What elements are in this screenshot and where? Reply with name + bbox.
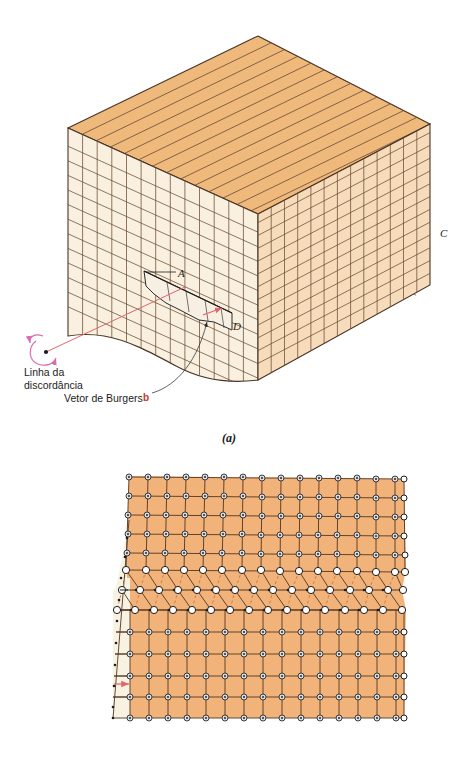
label-burgers-symbol-a: b xyxy=(143,392,149,403)
panel-a-3d-crystal: A C D Linha da discordância Vetor de Bur… xyxy=(0,0,462,460)
figure-root: A C D Linha da discordância Vetor de Bur… xyxy=(0,0,462,769)
label-burgers-vector: Vetor de Burgers xyxy=(64,392,143,405)
label-corner-d: D xyxy=(233,321,241,332)
label-dislocation-line-1: Linha da xyxy=(24,366,83,379)
caption-panel-a: (a) xyxy=(222,431,236,446)
panel-b-atomic-lattice: A B C D b (b) xyxy=(0,460,462,769)
label-dislocation-line: Linha da discordância xyxy=(24,366,83,392)
label-corner-a: A xyxy=(178,268,185,279)
label-corner-c: C xyxy=(440,228,447,239)
panel-b-svg xyxy=(0,460,462,769)
label-dislocation-line-2: discordância xyxy=(24,379,83,392)
